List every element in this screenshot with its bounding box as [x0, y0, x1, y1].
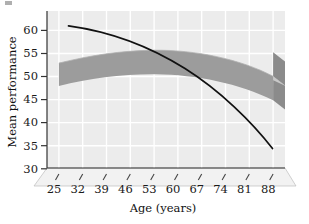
x-tick-label: 67 [189, 182, 204, 196]
y-tick-label: 45 [23, 92, 38, 106]
x-tick-label: 88 [261, 182, 276, 196]
chart-canvas: 30 35 40 45 50 55 60 25 32 39 46 53 60 6… [0, 0, 309, 224]
y-tick-labels: 30 35 40 45 50 55 60 [23, 23, 38, 175]
y-tick-label: 55 [23, 46, 38, 60]
y-tick-label: 60 [23, 23, 38, 37]
y-tick-marks [41, 30, 47, 168]
y-tick-label: 50 [23, 69, 38, 83]
y-tick-label: 35 [23, 139, 38, 153]
y-tick-label: 40 [23, 115, 38, 129]
x-tick-label: 46 [118, 182, 133, 196]
x-tick-label: 53 [142, 182, 157, 196]
chart-figure: 30 35 40 45 50 55 60 25 32 39 46 53 60 6… [0, 0, 309, 224]
x-tick-label: 60 [166, 182, 181, 196]
x-axis-title: Age (years) [129, 201, 197, 215]
scan-artifact [5, 1, 12, 5]
x-tick-label: 32 [70, 182, 85, 196]
x-tick-label: 74 [213, 182, 228, 196]
x-tick-label: 25 [47, 182, 62, 196]
y-tick-label: 30 [23, 162, 38, 176]
y-axis-title: Mean performance [5, 36, 19, 147]
x-tick-label: 81 [237, 182, 252, 196]
x-tick-label: 39 [94, 182, 109, 196]
